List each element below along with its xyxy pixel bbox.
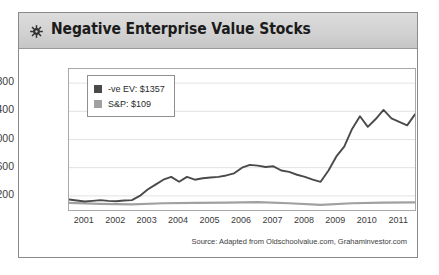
- x-axis-tick-label: 2011: [378, 215, 418, 225]
- chart-card: Negative Enterprise Value Stocks $200$60…: [18, 12, 418, 258]
- source-note: Source: Adapted from Oldschoolvalue.com,…: [19, 237, 407, 246]
- page-title: Negative Enterprise Value Stocks: [51, 20, 311, 38]
- legend-swatch-sp: [94, 100, 102, 108]
- legend-label-negative-ev: -ve EV: $1357: [108, 84, 165, 94]
- y-axis-tick-label: $1,400: [0, 103, 14, 115]
- card-header: Negative Enterprise Value Stocks: [19, 13, 417, 49]
- legend-swatch-negative-ev: [94, 85, 102, 93]
- y-axis-tick-label: $200: [0, 188, 14, 200]
- chart-area: $200$600$1,000$1,400$1,800 2001200220032…: [19, 49, 417, 259]
- y-axis-tick-label: $600: [0, 160, 14, 172]
- y-axis-tick-label: $1,800: [0, 75, 14, 87]
- chart-legend: -ve EV: $1357 S&P: $109: [87, 75, 175, 117]
- gear-icon: [30, 24, 43, 37]
- legend-label-sp: S&P: $109: [108, 99, 151, 109]
- legend-item-negative-ev: -ve EV: $1357: [94, 81, 165, 96]
- y-axis-tick-label: $1,000: [0, 132, 14, 144]
- legend-item-sp: S&P: $109: [94, 96, 165, 111]
